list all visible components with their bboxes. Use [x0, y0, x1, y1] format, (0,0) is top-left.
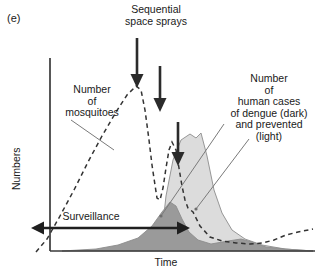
leader-endpoint-dark	[159, 214, 162, 217]
spray-arrow-2	[154, 66, 167, 112]
figure-panel-e: (e) Sequential space sprays Number of mo…	[0, 0, 327, 278]
leader-line-mosquitoes	[71, 120, 114, 150]
x-axis-label: Time	[146, 257, 186, 269]
spray-arrow-1	[131, 38, 144, 88]
annotation-human-cases-of-dengue: Number of human cases of dengue (dark) a…	[213, 73, 325, 142]
annotation-surveillance: Surveillance	[44, 211, 138, 223]
annotation-sequential-space-sprays: Sequential space sprays	[101, 4, 211, 27]
annotation-number-of-mosquitoes: Number of mosquitoes	[55, 84, 129, 119]
panel-label: (e)	[7, 13, 20, 25]
y-axis-label: Numbers	[11, 134, 23, 204]
leader-endpoint-light	[194, 207, 197, 210]
